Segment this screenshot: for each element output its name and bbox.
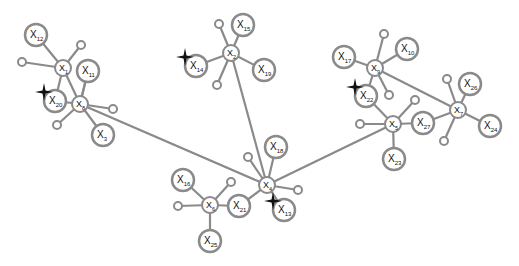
unlabeled-node[interactable] <box>174 202 182 210</box>
leaf-node-x21[interactable]: X21 <box>228 195 250 217</box>
hub-node-x6[interactable]: X6 <box>202 197 218 213</box>
unlabeled-node[interactable] <box>109 105 117 113</box>
leaf-node-x19[interactable]: X19 <box>253 59 275 81</box>
leaf-node-x14[interactable]: X14 <box>185 55 207 77</box>
unlabeled-node[interactable] <box>18 58 26 66</box>
leaf-node-x23[interactable]: X23 <box>383 148 405 170</box>
leaf-node-x17[interactable]: X17 <box>333 46 355 68</box>
leaf-node-x11[interactable]: X11 <box>77 60 99 82</box>
leaf-node-x12[interactable]: X12 <box>25 24 47 46</box>
hub-node-x7[interactable]: X7 <box>450 102 466 118</box>
unlabeled-node[interactable] <box>213 81 221 89</box>
leaf-node-x20[interactable]: X20 <box>44 90 66 112</box>
leaf-node-x15[interactable]: X15 <box>232 14 254 36</box>
graph-svg: X1X8X2X9X5X7X4X6X12X11X20X3X15X14X19X17X… <box>0 0 519 266</box>
unlabeled-node[interactable] <box>385 91 393 99</box>
leaf-node-x26[interactable]: X26 <box>459 73 481 95</box>
unlabeled-node[interactable] <box>53 121 61 129</box>
leaf-node-x24[interactable]: X24 <box>479 115 501 137</box>
leaf-node-x16[interactable]: X16 <box>172 169 194 191</box>
leaf-node-x10[interactable]: X10 <box>396 38 418 60</box>
graph-diagram: X1X8X2X9X5X7X4X6X12X11X20X3X15X14X19X17X… <box>0 0 519 266</box>
unlabeled-node[interactable] <box>411 96 419 104</box>
unlabeled-node[interactable] <box>356 120 364 128</box>
unlabeled-node[interactable] <box>380 30 388 38</box>
hub-node-x8[interactable]: X8 <box>72 96 88 112</box>
hub-node-x4[interactable]: X4 <box>259 177 275 193</box>
unlabeled-node[interactable] <box>77 41 85 49</box>
leaf-node-x13[interactable]: X13 <box>273 199 295 221</box>
leaf-node-x22[interactable]: X22 <box>355 85 377 107</box>
hub-node-x5[interactable]: X5 <box>385 116 401 132</box>
hub-node-x9[interactable]: X9 <box>367 60 383 76</box>
unlabeled-node[interactable] <box>244 153 252 161</box>
leaf-node-x25[interactable]: X25 <box>199 230 221 252</box>
hub-node-x1[interactable]: X1 <box>55 60 71 76</box>
leaf-node-x3[interactable]: X3 <box>92 124 114 146</box>
unlabeled-node[interactable] <box>440 137 448 145</box>
edge-x5-x4 <box>267 124 393 185</box>
nodes-layer: X1X8X2X9X5X7X4X6X12X11X20X3X15X14X19X17X… <box>18 14 501 252</box>
unlabeled-node[interactable] <box>443 75 451 83</box>
unlabeled-node[interactable] <box>215 20 223 28</box>
unlabeled-node[interactable] <box>227 178 235 186</box>
hub-node-x2[interactable]: X2 <box>223 45 239 61</box>
leaf-node-x18[interactable]: X18 <box>265 136 287 158</box>
unlabeled-node[interactable] <box>294 186 302 194</box>
leaf-node-x27[interactable]: X27 <box>412 112 434 134</box>
